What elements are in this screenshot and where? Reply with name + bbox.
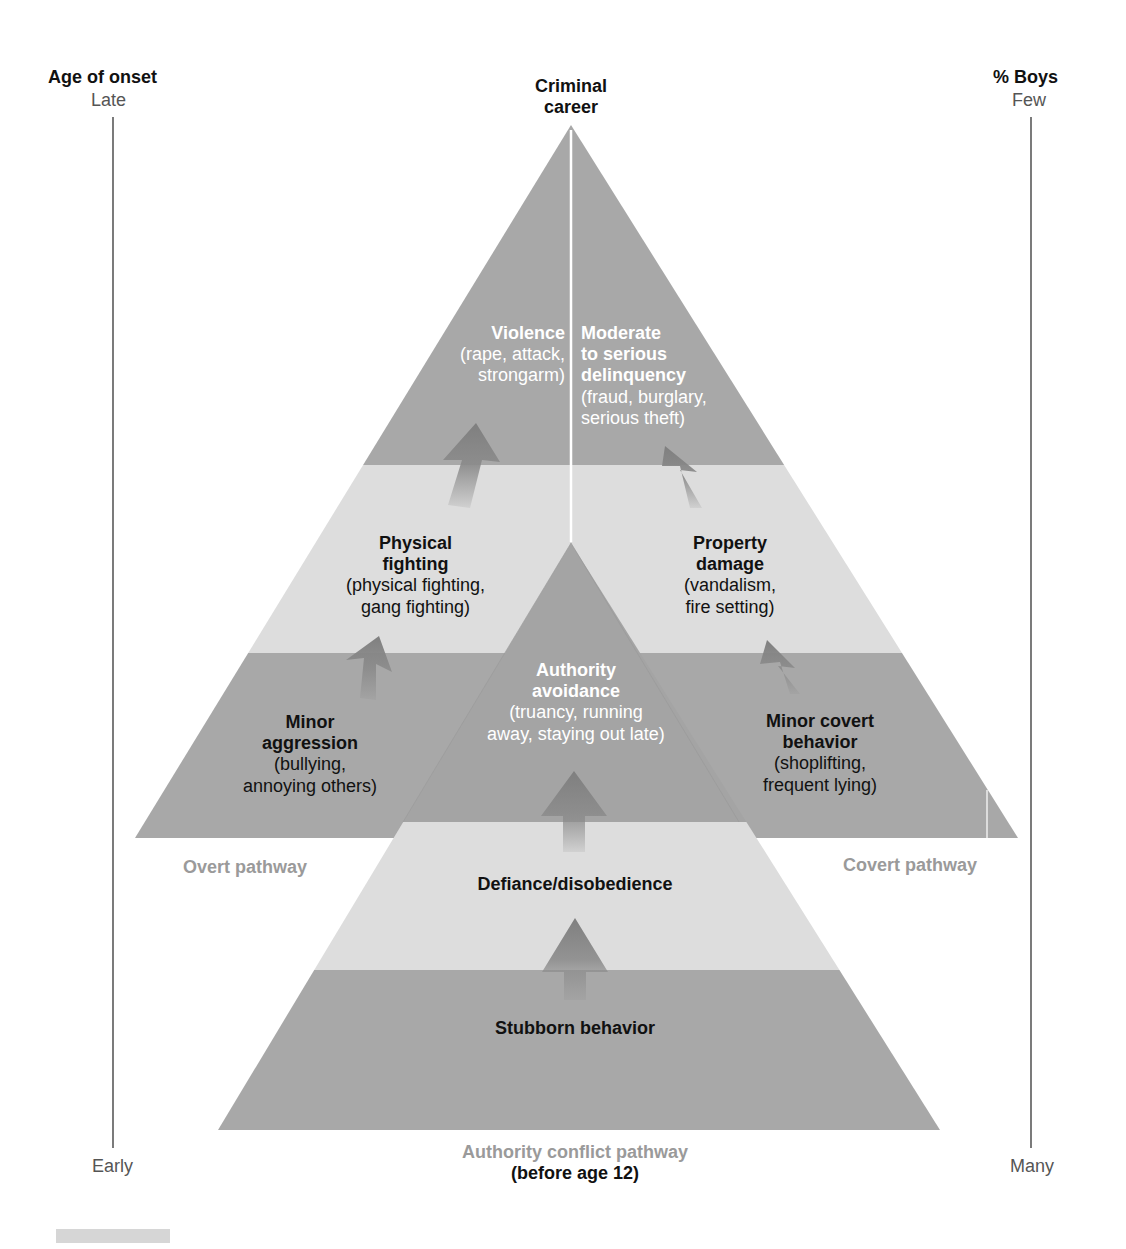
covert-pathway-label: Covert pathway (820, 855, 1000, 876)
stage-violence: Violence (rape, attack, strongarm) (415, 323, 565, 387)
boys-axis-top: Few (1012, 90, 1046, 111)
age-axis-bottom: Early (92, 1156, 133, 1177)
stage-stubborn: Stubborn behavior (450, 1018, 700, 1039)
authority-pathway-age: (before age 12) (420, 1163, 730, 1184)
legend-swatch (56, 1229, 170, 1243)
stage-defiance: Defiance/disobedience (430, 874, 720, 895)
boys-axis-bottom: Many (1010, 1156, 1054, 1177)
authority-pathway-label: Authority conflict pathway (before age 1… (420, 1142, 730, 1184)
stage-serious-delinquency: Moderate to serious delinquency (fraud, … (581, 323, 761, 429)
boys-axis-title: % Boys (993, 67, 1058, 88)
stage-minor-aggression: Minor aggression (bullying, annoying oth… (220, 712, 400, 797)
age-axis-title: Age of onset (48, 67, 157, 88)
criminal-career-label: Criminalcareer (511, 76, 631, 118)
pathway-diagram (0, 0, 1126, 1249)
age-axis-top: Late (91, 90, 126, 111)
stage-authority-avoidance: Authority avoidance (truancy, running aw… (456, 660, 696, 745)
stage-property-damage: Property damage (vandalism, fire setting… (650, 533, 810, 618)
overt-pathway-label: Overt pathway (160, 857, 330, 878)
stage-physical-fighting: Physical fighting (physical fighting, ga… (318, 533, 513, 618)
stage-minor-covert-behavior: Minor covert behavior (shoplifting, freq… (740, 711, 900, 796)
